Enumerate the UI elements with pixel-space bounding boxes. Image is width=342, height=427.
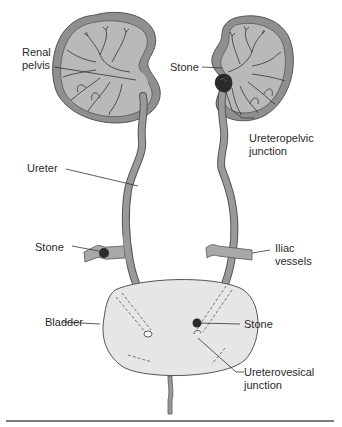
stone-iliac bbox=[99, 248, 109, 258]
label-stone-uvj: Stone bbox=[244, 318, 273, 331]
urethra bbox=[168, 376, 173, 414]
urinary-tract-diagram: Renal pelvis Stone Ureteropelvic junctio… bbox=[0, 0, 342, 427]
bladder bbox=[103, 280, 258, 376]
label-stone-iliac: Stone bbox=[35, 241, 64, 254]
label-iliac-vessels: Iliac vessels bbox=[275, 242, 312, 268]
label-ureterovesical-junction: Ureterovesical junction bbox=[244, 366, 314, 392]
stone-ureteropelvic bbox=[215, 74, 233, 93]
label-ureteropelvic-junction: Ureteropelvic junction bbox=[249, 132, 314, 158]
label-renal-pelvis: Renal pelvis bbox=[22, 46, 51, 72]
bottom-rule bbox=[6, 420, 334, 422]
label-stone-upj: Stone bbox=[170, 61, 199, 74]
label-bladder: Bladder bbox=[45, 316, 83, 329]
label-ureter: Ureter bbox=[27, 162, 58, 175]
